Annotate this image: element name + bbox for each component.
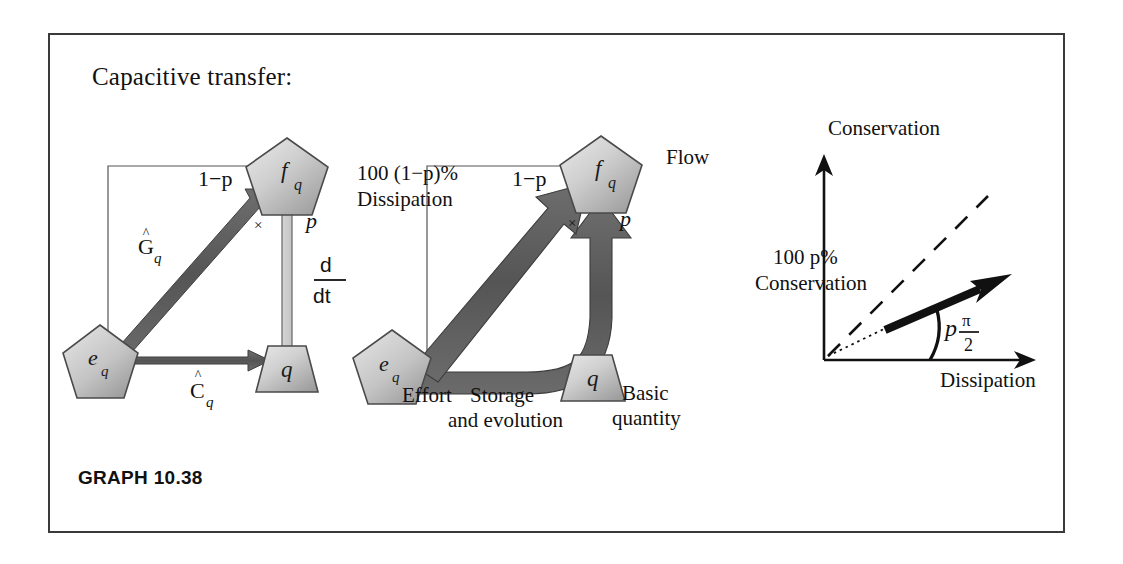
- annotation-storage-line2: and evolution: [448, 408, 563, 433]
- label-capacitance-subscript: q: [206, 394, 214, 410]
- label-dissipative-weight: 1−p: [512, 166, 546, 191]
- annotation-effort-text: Effort: [402, 383, 452, 407]
- node-flow: f q: [246, 138, 328, 215]
- label-dissipative-weight: 1−p: [198, 166, 232, 191]
- node-effort-symbol: e: [88, 345, 98, 370]
- annotation-storage-line1: Storage: [470, 383, 563, 408]
- node-quantity-symbol: q: [281, 357, 293, 382]
- axis-label-conservation-text: Conservation: [828, 116, 940, 140]
- node-effort: e q: [63, 325, 138, 398]
- vector-tail-dotted-extension: [828, 328, 886, 356]
- node-flow-subscript: q: [608, 174, 616, 192]
- node-effort-subscript: q: [392, 369, 400, 385]
- label-conservative-weight: p: [304, 208, 317, 233]
- label-conductance-subscript: q: [154, 250, 162, 266]
- node-effort-subscript: q: [101, 363, 109, 379]
- arrow-dissipation: [414, 183, 588, 382]
- label-cross: ×: [254, 217, 262, 233]
- label-time-derivative: d dt: [313, 253, 346, 307]
- derivative-denominator: dt: [313, 284, 331, 307]
- axis-label-conservation: Conservation: [828, 116, 940, 141]
- label-capacitance-symbol: C: [190, 378, 205, 403]
- node-flow: f q: [560, 136, 642, 213]
- annotation-effort: Effort: [402, 383, 452, 408]
- axis-label-dissipation: Dissipation: [940, 368, 1036, 393]
- label-angle: p π 2: [943, 311, 979, 355]
- annotation-conservation-percent: 100 p% Conservation: [755, 244, 867, 296]
- figure-caption: GRAPH 10.38: [78, 467, 203, 489]
- node-quantity-symbol: q: [587, 366, 599, 391]
- label-conductance-symbol: G: [138, 234, 154, 259]
- annotation-dissipation: 100 (1−p)% Dissipation: [357, 160, 458, 212]
- panel-left-bond-graph: f q e q q 1−p × p ^ G q ^ C q d dt: [70, 120, 370, 420]
- annotation-quantity-line1: Basic: [622, 381, 681, 406]
- annotation-dissipation-line2: Dissipation: [357, 186, 458, 212]
- annotation-conservation-line2: Conservation: [755, 270, 867, 296]
- axis-label-dissipation-text: Dissipation: [940, 368, 1036, 392]
- annotation-flow-text: Flow: [666, 145, 709, 169]
- annotation-conservation-line1: 100 p%: [773, 244, 867, 270]
- arrow-effort-to-flow: [114, 189, 271, 361]
- annotation-quantity-line2: quantity: [612, 406, 681, 431]
- annotation-flow: Flow: [666, 145, 709, 170]
- derivative-numerator: d: [320, 253, 332, 276]
- annotation-basic-quantity: Basic quantity: [612, 381, 681, 431]
- page-title: Capacitive transfer:: [92, 63, 292, 91]
- annotation-dissipation-line1: 100 (1−p)%: [357, 160, 458, 186]
- node-flow-subscript: q: [294, 176, 302, 194]
- label-conservative-weight: p: [618, 206, 631, 231]
- annotation-storage: Storage and evolution: [470, 383, 563, 433]
- label-conductance: ^ G q: [138, 226, 162, 266]
- angle-denominator: 2: [964, 335, 973, 355]
- node-quantity: q: [256, 346, 318, 392]
- angle-p-symbol: p: [943, 315, 957, 341]
- angle-numerator: π: [962, 311, 971, 330]
- node-effort-symbol: e: [379, 351, 389, 376]
- angle-arc: [930, 310, 939, 360]
- label-capacitance: ^ C q: [190, 368, 214, 410]
- label-cross: ×: [568, 215, 576, 231]
